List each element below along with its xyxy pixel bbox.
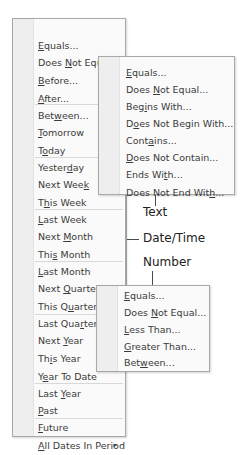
label-suffix: quals...: [44, 40, 79, 51]
menu-item[interactable]: Equals...: [13, 37, 125, 54]
label-suffix: quals...: [130, 290, 165, 301]
menu-item-label: Next Year: [38, 332, 83, 349]
access-key: N: [151, 307, 158, 318]
menu-item-label: Next Week: [38, 176, 89, 193]
menu-item[interactable]: Equals...: [97, 287, 209, 304]
menu-separator: [35, 418, 123, 419]
menu-item-label: Equals...: [124, 287, 165, 304]
label-suffix: ast Week: [43, 214, 87, 225]
label-prefix: Last Qua: [38, 318, 80, 329]
label-suffix: reater Than...: [131, 341, 196, 352]
menu-item[interactable]: Less Than...: [97, 321, 209, 338]
menu-item-label: Does Not End With...: [126, 184, 224, 201]
label-suffix: een...: [62, 110, 89, 121]
access-key: k: [84, 179, 90, 190]
label-prefix: Does: [126, 84, 153, 95]
menu-item-label: Greater Than...: [124, 338, 196, 355]
menu-item-label: This Quarter: [38, 298, 97, 315]
menu-separator: [35, 261, 123, 262]
label-suffix: onth: [71, 231, 93, 242]
number-callout-line: [152, 271, 153, 285]
menu-item[interactable]: Contains...: [99, 132, 234, 149]
menu-item-label: Future: [38, 419, 68, 436]
access-key: w: [140, 357, 148, 368]
label-suffix: ast Month: [43, 266, 90, 277]
menu-item-label: Next Quarter: [38, 280, 100, 297]
label-prefix: Ends Wi: [126, 169, 164, 180]
label-suffix: es Not Begin With...: [139, 118, 233, 129]
menu-item-label: Before...: [38, 72, 78, 89]
menu-item[interactable]: Greater Than...: [97, 338, 209, 355]
menu-item-label: Begins With...: [126, 98, 192, 115]
label-prefix: Next: [38, 335, 63, 346]
menu-item[interactable]: Ends With...: [99, 166, 234, 183]
label-prefix: Th: [38, 353, 50, 364]
label-prefix: Next Wee: [38, 179, 84, 190]
menu-item[interactable]: Does Not Equal...: [97, 304, 209, 321]
label-suffix: oes Not Contain...: [133, 152, 218, 163]
label-suffix: ear: [68, 335, 84, 346]
number-callout-label: Number: [143, 255, 191, 269]
label-suffix: ot Equal...: [160, 84, 208, 95]
label-suffix: ns With...: [147, 101, 192, 112]
label-prefix: Last: [38, 388, 61, 399]
label-suffix: ot Equal...: [158, 307, 206, 318]
menu-separator: [35, 383, 123, 384]
menu-item-label: Does Not Equal...: [126, 81, 208, 98]
label-prefix: Thi: [38, 249, 52, 260]
label-prefix: Beg: [126, 101, 144, 112]
label-prefix: Does Not End Wit: [126, 187, 209, 198]
menu-item[interactable]: Does Not Equal...: [99, 81, 234, 98]
label-prefix: This Q: [38, 301, 68, 312]
menu-item[interactable]: All Dates In Period▸: [13, 437, 125, 454]
datetime-callout-line: [127, 239, 139, 240]
label-prefix: Bet: [124, 357, 140, 368]
menu-item[interactable]: Begins With...: [99, 98, 234, 115]
menu-item-label: Next Month: [38, 228, 93, 245]
menu-item[interactable]: Past: [13, 402, 125, 419]
label-suffix: ...: [215, 187, 224, 198]
menu-item-label: Does Not Equal...: [124, 304, 206, 321]
label-suffix: quals...: [132, 67, 167, 78]
menu-item[interactable]: Next Month: [13, 228, 125, 245]
label-prefix: Does: [124, 307, 151, 318]
label-prefix: Bet: [38, 110, 54, 121]
label-prefix: Yester: [38, 162, 67, 173]
menu-item-label: Does Not Contain...: [126, 149, 218, 166]
label-suffix: day: [48, 145, 65, 156]
menu-item-label: This Year: [38, 350, 81, 367]
menu-item-label: All Dates In Period: [38, 437, 125, 454]
menu-item[interactable]: Future: [13, 419, 125, 436]
access-key: Q: [63, 283, 70, 294]
number-filter-menu: Equals...Does Not Equal...Less Than...Gr…: [96, 285, 210, 372]
label-prefix: Next: [38, 231, 63, 242]
label-suffix: fter...: [44, 93, 69, 104]
label-suffix: h...: [168, 169, 183, 180]
menu-item-label: Does Not Begin With...: [126, 115, 233, 132]
label-suffix: ar To Date: [48, 371, 96, 382]
main-menu-edge-line: [126, 195, 127, 285]
menu-item-label: Last Quarter: [38, 315, 98, 332]
label-suffix: Month: [57, 249, 90, 260]
menu-item-label: Equals...: [126, 64, 167, 81]
label-suffix: efore...: [45, 75, 79, 86]
menu-item-label: Last Month: [38, 263, 91, 280]
label-suffix: ess Than...: [129, 324, 181, 335]
label-suffix: ins...: [154, 135, 177, 146]
menu-item[interactable]: Does Not Begin With...: [99, 115, 234, 132]
menu-item-label: Last Year: [38, 385, 81, 402]
menu-item[interactable]: Does Not End With...: [99, 184, 234, 201]
menu-item[interactable]: Last Week: [13, 211, 125, 228]
menu-item[interactable]: Last Year: [13, 385, 125, 402]
menu-item[interactable]: Between...: [97, 354, 209, 371]
menu-item-label: Last Week: [38, 211, 87, 228]
menu-item[interactable]: Last Month: [13, 263, 125, 280]
access-key: w: [54, 110, 62, 121]
menu-item[interactable]: Does Not Contain...: [99, 149, 234, 166]
label-suffix: ear: [65, 388, 81, 399]
label-suffix: is Week: [50, 197, 87, 208]
menu-item[interactable]: Equals...: [99, 64, 234, 81]
label-suffix: uture: [43, 422, 68, 433]
menu-item-label: Ends With...: [126, 166, 183, 183]
label-suffix: ast: [43, 405, 58, 416]
